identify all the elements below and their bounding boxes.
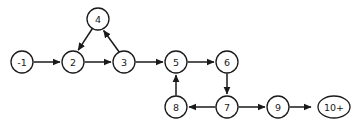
- node-2[interactable]: 2: [62, 51, 84, 73]
- node-7-shape[interactable]: [216, 96, 238, 118]
- directed-graph: -1 2 3 4 5 6: [0, 0, 356, 127]
- node-9[interactable]: 9: [267, 96, 289, 118]
- node-7[interactable]: 7: [216, 96, 238, 118]
- node-10plus[interactable]: 10+: [318, 96, 350, 118]
- node-6-shape[interactable]: [216, 51, 238, 73]
- node-6[interactable]: 6: [216, 51, 238, 73]
- graph-canvas: -1 2 3 4 5 6: [0, 0, 356, 127]
- node--1[interactable]: -1: [11, 51, 33, 73]
- node-10plus-shape[interactable]: [318, 96, 350, 118]
- node-2-shape[interactable]: [62, 51, 84, 73]
- node-3-shape[interactable]: [113, 51, 135, 73]
- node-8[interactable]: 8: [165, 96, 187, 118]
- edge-4-to-2: [78, 29, 92, 51]
- node-5[interactable]: 5: [165, 51, 187, 73]
- edge-3-to-4: [104, 31, 120, 53]
- node-4[interactable]: 4: [87, 8, 109, 30]
- node--1-shape[interactable]: [11, 51, 33, 73]
- node-layer: -1 2 3 4 5 6: [11, 8, 350, 118]
- node-8-shape[interactable]: [165, 96, 187, 118]
- node-4-shape[interactable]: [87, 8, 109, 30]
- node-9-shape[interactable]: [267, 96, 289, 118]
- node-3[interactable]: 3: [113, 51, 135, 73]
- node-5-shape[interactable]: [165, 51, 187, 73]
